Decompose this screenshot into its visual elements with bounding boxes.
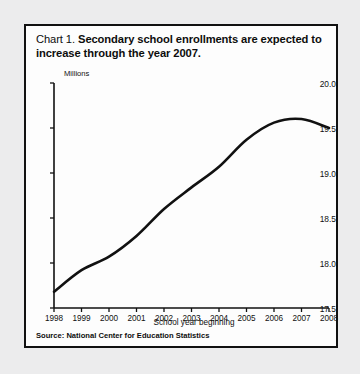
source-note: Source: National Center for Education St… bbox=[36, 331, 209, 340]
chart-figure-frame: Chart 1. Secondary school enrollments ar… bbox=[24, 24, 338, 348]
x-axis-title: School year beginning bbox=[26, 318, 336, 327]
enrollment-trend-line bbox=[54, 119, 329, 292]
y-axis-units-label: Millions bbox=[64, 69, 89, 78]
page-background: Chart 1. Secondary school enrollments ar… bbox=[0, 0, 360, 374]
plot-area: Millions 17.518.018.519.019.520.0 199819… bbox=[26, 26, 336, 346]
x-axis-title-text: School year beginning bbox=[127, 318, 234, 327]
axes-group bbox=[50, 83, 329, 312]
